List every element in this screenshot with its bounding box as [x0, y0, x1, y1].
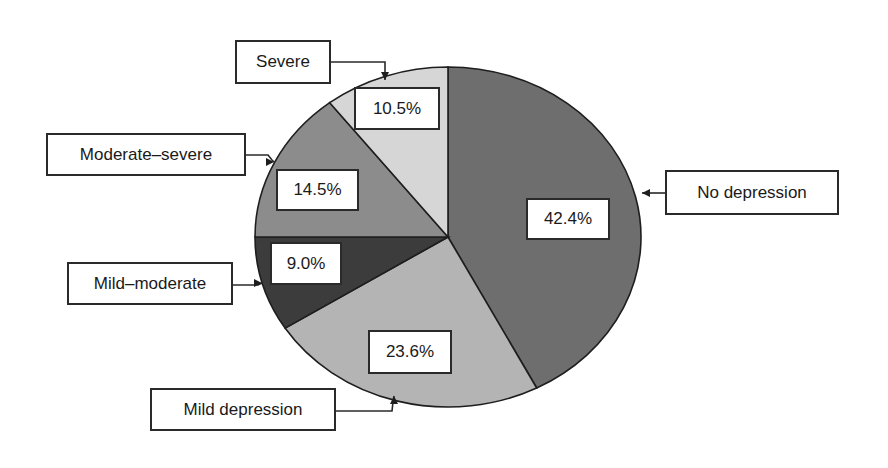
callout-mild-moderate: Mild–moderate [67, 262, 233, 305]
callout-moderate-severe: Moderate–severe [46, 133, 246, 176]
value-label-no-depression: 42.4% [526, 198, 610, 240]
callout-mild-depression: Mild depression [150, 388, 336, 431]
callout-arrow [331, 62, 385, 80]
arrowhead-icon [642, 189, 650, 197]
callout-no-depression: No depression [665, 170, 839, 215]
value-label-mild-moderate: 9.0% [270, 242, 342, 285]
value-label-severe: 10.5% [354, 87, 440, 130]
value-label-mild-depression: 23.6% [368, 330, 452, 374]
callout-severe: Severe [235, 40, 331, 84]
pie-chart [0, 0, 888, 468]
value-label-moderate-severe: 14.5% [276, 169, 359, 211]
